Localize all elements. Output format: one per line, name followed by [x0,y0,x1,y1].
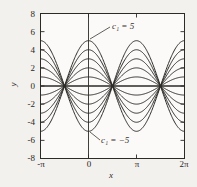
annotation-c1-max: c₁ = 5 [112,22,134,31]
annotation-text: c₁ = 5 [112,21,134,31]
annotation-c1-min: c₁ = −5 [101,136,129,145]
x-axis-label: x [109,171,113,180]
x-tick-label: 2π [174,160,194,169]
y-tick-label: 0 [9,82,35,91]
y-tick-label: -6 [9,136,35,145]
annotation-text: c₁ = −5 [101,135,129,145]
y-tick-label: -4 [9,118,35,127]
y-tick-label: 2 [9,64,35,73]
y-tick-label: -2 [9,100,35,109]
y-tick-label: 6 [9,28,35,37]
x-tick-label: π [127,160,147,169]
x-tick-label: 0 [79,160,99,169]
x-tick-label: -π [31,160,51,169]
y-tick-label: 8 [9,10,35,19]
y-tick-label: 4 [9,46,35,55]
